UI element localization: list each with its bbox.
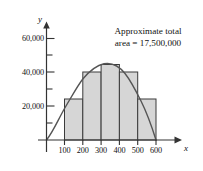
xtick-label-500: 500: [128, 146, 148, 155]
ytick-label-20000: 20,000: [6, 102, 44, 111]
y-axis: [43, 22, 50, 153]
xtick-label-600: 600: [146, 146, 166, 155]
ytick-label-60000: 60,000: [6, 34, 44, 43]
xtick-label-300: 300: [91, 146, 111, 155]
y-axis-label: y: [38, 14, 42, 24]
xtick-label-400: 400: [109, 146, 129, 155]
xtick-label-100: 100: [55, 146, 75, 155]
area-annotation-line1: Approximate total: [96, 26, 200, 38]
x-tick-marks: [65, 140, 157, 145]
chart-figure: 60,000 40,000 20,000 100 200 300 400 500…: [0, 0, 203, 171]
bar-400-500: [119, 72, 137, 140]
bar-200-300: [83, 72, 101, 140]
y-tick-marks: [47, 39, 55, 124]
ytick-label-40000: 40,000: [6, 68, 44, 77]
xtick-label-200: 200: [73, 146, 93, 155]
area-annotation-line2: area = 17,500,000: [96, 38, 200, 50]
area-annotation: Approximate total area = 17,500,000: [96, 26, 200, 49]
bar-500-600: [138, 99, 156, 140]
x-axis-label: x: [184, 143, 188, 153]
bar-300-400: [101, 65, 119, 141]
